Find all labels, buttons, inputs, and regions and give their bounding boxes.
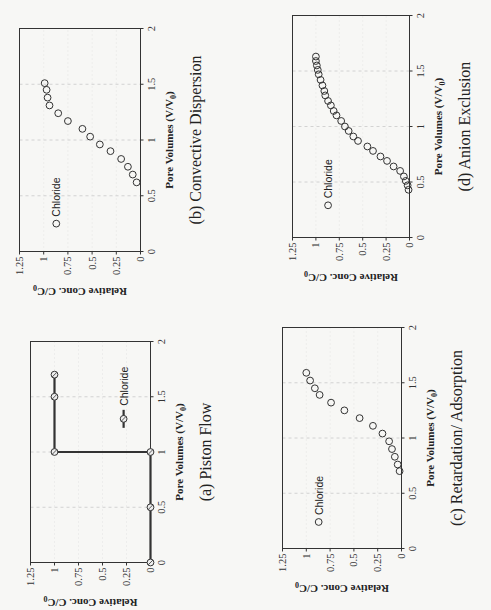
caption-d: (d) Anion Exclusion xyxy=(455,0,473,276)
plot-frame xyxy=(282,327,401,548)
data-point xyxy=(363,143,370,150)
x-tick-label: 1 xyxy=(406,435,417,440)
x-tick-label: 0 xyxy=(406,545,417,550)
y-tick-label: 1.25 xyxy=(277,553,288,571)
data-point xyxy=(133,178,140,185)
y-tick-label: 0.25 xyxy=(121,567,132,585)
data-point xyxy=(147,503,154,510)
y-tick-label: 0.5 xyxy=(97,567,108,580)
x-tick-label: 1 xyxy=(414,123,425,128)
y-tick-label: 1 xyxy=(38,256,49,261)
y-tick-label: 0 xyxy=(135,256,146,261)
data-point xyxy=(311,384,318,391)
legend-label: Chloride xyxy=(50,177,62,216)
data-point xyxy=(79,125,86,132)
x-tick-label: 2 xyxy=(145,25,156,30)
data-point xyxy=(333,111,340,118)
y-tick-label: 0 xyxy=(396,553,407,558)
legend-label: Chloride xyxy=(312,475,324,514)
data-point xyxy=(306,377,313,384)
data-point xyxy=(107,147,114,154)
legend: Chloride xyxy=(117,366,129,427)
legend-marker-icon xyxy=(120,415,127,422)
x-tick-label: 1 xyxy=(155,449,166,454)
y-axis-title: Relative Conc. C/C0 xyxy=(303,268,397,283)
x-axis-title: Pore Volumes (V/V0) xyxy=(162,91,177,189)
series-line xyxy=(54,374,150,562)
data-point xyxy=(340,406,347,413)
y-tick-label: 1.25 xyxy=(14,256,25,274)
y-axis-title: Relative Conc. C/C0 xyxy=(43,593,137,608)
chart-b: 00.511.5200.250.50.7511.25Pore Volumes (… xyxy=(5,9,240,309)
x-tick-label: 1.5 xyxy=(155,390,166,403)
x-axis-title: Pore Volumes (V/V0) xyxy=(423,389,438,487)
x-tick-label: 0 xyxy=(145,248,156,253)
legend: Chloride xyxy=(322,159,334,209)
plot-frame xyxy=(292,15,409,237)
y-tick-label: 0.75 xyxy=(62,256,73,274)
y-tick-label: 1.25 xyxy=(287,242,298,260)
y-tick-label: 0.25 xyxy=(372,553,383,571)
data-point xyxy=(327,399,334,406)
data-point xyxy=(64,117,71,124)
legend-label: Chloride xyxy=(322,159,334,198)
y-tick-label: 0.75 xyxy=(324,553,335,571)
x-tick-label: 1.5 xyxy=(406,376,417,389)
y-tick-label: 0.25 xyxy=(110,256,121,274)
data-point xyxy=(41,79,48,86)
y-tick-label: 1 xyxy=(310,242,321,247)
data-point xyxy=(54,109,61,116)
caption-a: (a) Piston Flow xyxy=(196,302,214,602)
data-point xyxy=(302,369,309,376)
data-point xyxy=(129,171,136,178)
data-point xyxy=(51,448,58,455)
y-tick-label: 0.5 xyxy=(86,256,97,269)
x-tick-label: 1.5 xyxy=(145,77,156,90)
y-tick-label: 0.75 xyxy=(333,242,344,260)
x-tick-label: 1.5 xyxy=(414,64,425,77)
caption-b: (b) Convective Dispersion xyxy=(186,0,204,290)
legend: Chloride xyxy=(50,177,62,227)
y-tick-label: 0 xyxy=(404,242,415,247)
panel-b-convective-dispersion: 00.511.5200.250.50.7511.25Pore Volumes (… xyxy=(5,9,240,309)
data-point xyxy=(44,94,51,101)
data-point xyxy=(316,391,323,398)
x-tick-label: 0.5 xyxy=(406,486,417,499)
plot-frame xyxy=(19,28,140,251)
data-point xyxy=(117,155,124,162)
data-point xyxy=(388,445,395,452)
y-tick-label: 0.5 xyxy=(348,553,359,566)
data-point xyxy=(96,141,103,148)
data-point xyxy=(385,437,392,444)
data-point xyxy=(369,422,376,429)
x-tick-label: 2 xyxy=(155,338,166,343)
x-tick-label: 2 xyxy=(414,12,425,17)
x-tick-label: 0 xyxy=(414,234,425,239)
data-point xyxy=(383,157,390,164)
data-point xyxy=(354,137,361,144)
legend-marker-icon xyxy=(324,201,331,208)
legend: Chloride xyxy=(312,475,324,525)
data-point xyxy=(46,102,53,109)
data-point xyxy=(51,393,58,400)
x-axis-title: Pore Volumes (V/V0) xyxy=(172,403,187,501)
x-tick-label: 0.5 xyxy=(155,500,166,513)
y-tick-label: 1.25 xyxy=(25,567,36,585)
panel-a-piston-flow: 00.511.5200.250.50.7511.25Pore Volumes (… xyxy=(16,320,251,610)
y-tick-label: 1 xyxy=(49,567,60,572)
panel-c-retardation-adsorption: 00.511.5200.250.50.7511.25Pore Volumes (… xyxy=(268,306,491,606)
data-point xyxy=(147,448,154,455)
y-tick-label: 0.5 xyxy=(357,242,368,255)
x-tick-label: 2 xyxy=(406,324,417,329)
data-point xyxy=(356,414,363,421)
chart-a: 00.511.5200.250.50.7511.25Pore Volumes (… xyxy=(16,320,251,610)
y-tick-label: 0.25 xyxy=(380,242,391,260)
data-point xyxy=(147,559,154,566)
data-point xyxy=(390,163,397,170)
data-point xyxy=(391,453,398,460)
y-tick-label: 1 xyxy=(300,553,311,558)
legend-marker-icon xyxy=(315,518,322,525)
panel-d-anion-exclusion: 00.511.5200.250.50.7511.25Pore Volumes (… xyxy=(278,0,491,295)
x-tick-label: 0 xyxy=(155,559,166,564)
y-axis-title: Relative Conc. C/C0 xyxy=(32,282,126,297)
